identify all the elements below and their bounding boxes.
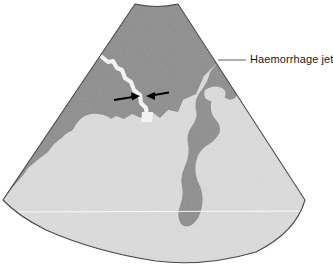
haemorrhage-jet-label: Haemorrhage jet <box>250 53 333 66</box>
jet-outflow-flare <box>141 112 153 122</box>
